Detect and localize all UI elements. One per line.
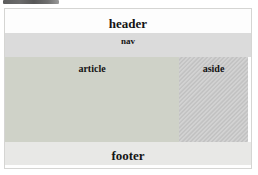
aside-label: aside bbox=[203, 63, 225, 74]
footer-section: footer bbox=[5, 142, 251, 165]
nav-label: nav bbox=[121, 36, 135, 46]
article-section: article bbox=[5, 57, 179, 142]
screenshot-root: header nav article aside footer bbox=[0, 0, 258, 175]
middle-row: article aside bbox=[5, 57, 251, 142]
aside-section: aside bbox=[179, 57, 248, 142]
footer-label: footer bbox=[111, 148, 144, 163]
article-label: article bbox=[78, 63, 105, 74]
header-label: header bbox=[109, 16, 147, 31]
right-margin-gap bbox=[248, 57, 251, 142]
header-section: header bbox=[5, 9, 251, 33]
nav-section: nav bbox=[5, 33, 251, 57]
layout-diagram-page: header nav article aside footer bbox=[4, 8, 252, 169]
cropped-text-artifact bbox=[3, 0, 59, 4]
